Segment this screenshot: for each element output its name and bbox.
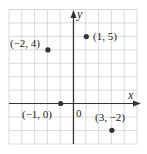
x-axis-label: x [127,88,134,102]
point-neg1-0 [58,101,63,106]
origin-label: 0 [76,107,82,119]
point-label-neg2-4: (−2, 4) [10,37,40,50]
axes: x y 0 [9,7,141,144]
y-axis-arrow-icon [71,10,77,18]
point-label-neg1-0: (−1, 0) [22,108,52,121]
point-neg2-4 [45,47,50,52]
y-axis-label: y [76,7,83,21]
point-3-neg2 [109,128,114,133]
coordinate-plane: x y 0 (−2, 4) (1, 5) (−1, 0) (3, −2) [0,0,147,154]
point-label-1-5: (1, 5) [93,30,117,43]
point-label-3-neg2: (3, −2) [95,111,125,124]
point-1-5 [84,34,89,39]
